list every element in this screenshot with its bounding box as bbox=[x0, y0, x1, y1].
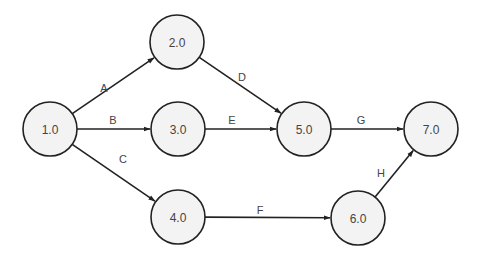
node-label: 2.0 bbox=[169, 36, 186, 50]
edge-label: E bbox=[228, 114, 235, 126]
node-6-0: 6.0 bbox=[331, 191, 385, 245]
edge-c: C bbox=[72, 144, 155, 201]
edge-f: F bbox=[205, 204, 330, 218]
edge-label: H bbox=[377, 167, 385, 179]
edge-h: H bbox=[375, 151, 413, 198]
nodes: 1.02.03.04.05.06.07.0 bbox=[23, 15, 458, 245]
node-3-0: 3.0 bbox=[151, 102, 205, 156]
edge-e: E bbox=[205, 114, 276, 129]
arrow-line bbox=[205, 217, 330, 218]
node-label: 4.0 bbox=[170, 211, 187, 225]
node-2-0: 2.0 bbox=[150, 15, 204, 69]
edge-label: A bbox=[100, 82, 108, 94]
node-label: 3.0 bbox=[170, 123, 187, 137]
arrow-line bbox=[72, 58, 154, 114]
edge-g: G bbox=[331, 114, 403, 129]
node-label: 5.0 bbox=[296, 123, 313, 137]
edge-label: C bbox=[119, 153, 127, 165]
edge-label: B bbox=[109, 114, 116, 126]
edge-d: D bbox=[199, 57, 281, 113]
node-7-0: 7.0 bbox=[404, 102, 458, 156]
edge-a: A bbox=[72, 58, 154, 114]
edge-b: B bbox=[77, 114, 150, 129]
edge-label: D bbox=[238, 71, 246, 83]
arrow-line bbox=[199, 57, 281, 113]
node-label: 6.0 bbox=[350, 212, 367, 226]
node-label: 7.0 bbox=[423, 123, 440, 137]
edge-label: G bbox=[357, 114, 366, 126]
network-diagram: ABCDEFGH 1.02.03.04.05.06.07.0 bbox=[0, 0, 479, 262]
node-5-0: 5.0 bbox=[277, 102, 331, 156]
node-label: 1.0 bbox=[42, 123, 59, 137]
node-4-0: 4.0 bbox=[151, 190, 205, 244]
arrow-line bbox=[72, 144, 155, 201]
edge-label: F bbox=[257, 204, 264, 216]
node-1-0: 1.0 bbox=[23, 102, 77, 156]
